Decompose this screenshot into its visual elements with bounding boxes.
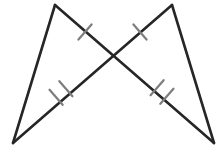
vertex-left-apex (52, 2, 58, 8)
geometry-figure (0, 0, 222, 145)
vertex-right-apex (169, 2, 175, 8)
vertex-crossing (111, 52, 117, 58)
geometry-canvas (0, 0, 222, 145)
